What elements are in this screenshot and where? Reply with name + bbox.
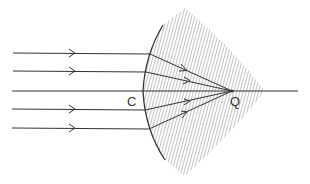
ray-2 — [13, 71, 146, 72]
refraction-diagram: C Q — [0, 0, 310, 184]
ray-5 — [12, 128, 149, 129]
hatched-medium-region — [143, 8, 265, 176]
label-focus: Q — [230, 94, 240, 109]
label-center: C — [127, 94, 136, 109]
ray-1 — [13, 53, 150, 54]
ray-4 — [12, 109, 145, 110]
focal-point — [231, 90, 234, 93]
